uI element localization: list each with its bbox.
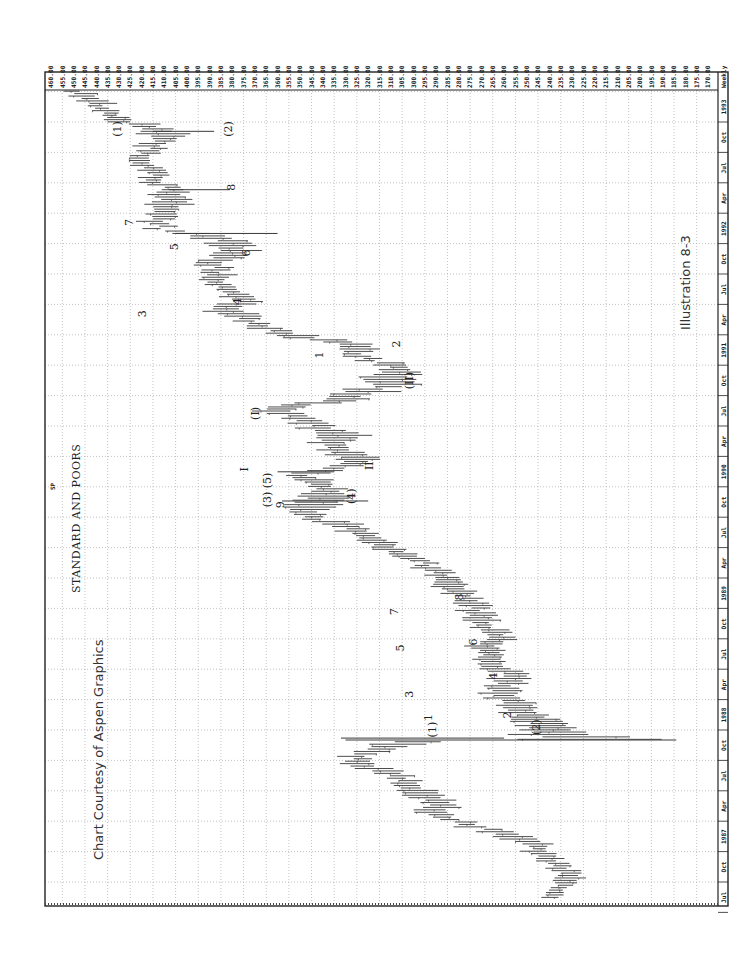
- date-tick-label: Jul: [720, 648, 727, 659]
- price-tick-label: 205.00: [625, 65, 632, 88]
- price-tick-label: 240.00: [546, 65, 553, 88]
- price-tick-label: 315.00: [376, 65, 383, 88]
- wave-label: (2): [530, 719, 543, 735]
- price-tick-label: 190.00: [659, 65, 666, 88]
- date-tick-label: Jul: [720, 527, 727, 538]
- price-tick-label: 390.00: [206, 65, 213, 88]
- price-tick-label: 460.00: [47, 65, 54, 88]
- price-tick-label: 170.00: [704, 65, 711, 88]
- date-tick-label: Oct: [720, 253, 727, 264]
- date-tick-label: Oct: [720, 132, 727, 143]
- price-tick-label: 260.00: [500, 65, 507, 88]
- wave-label: 8: [225, 184, 238, 191]
- date-tick-label: Apr: [720, 800, 728, 811]
- wave-label: (1): [426, 722, 439, 738]
- price-tick-label: 250.00: [523, 65, 530, 88]
- date-tick-label: Apr: [720, 557, 728, 568]
- date-tick-label: 1988: [720, 707, 727, 722]
- date-tick-label: Apr: [720, 314, 728, 325]
- price-tick-label: 445.00: [81, 65, 88, 88]
- time-axis: JulOct1987AprJulOct1988AprJulOct1989AprJ…: [718, 99, 728, 912]
- wave-label: 3: [136, 310, 149, 317]
- price-tick-label: 310.00: [387, 65, 394, 88]
- price-tick-label: 340.00: [319, 65, 326, 88]
- date-tick-label: Oct: [720, 861, 727, 872]
- price-tick-label: 395.00: [194, 65, 201, 88]
- price-tick-label: 290.00: [432, 65, 439, 88]
- wave-label: (I): [249, 407, 262, 420]
- wave-label: II: [363, 461, 376, 470]
- price-tick-label: 195.00: [648, 65, 655, 88]
- symbol-label: SP: [49, 482, 56, 490]
- wave-label: 4: [487, 673, 500, 680]
- price-tick-label: 185.00: [670, 65, 677, 88]
- price-tick-label: 245.00: [534, 65, 541, 88]
- date-tick-label: Oct: [720, 375, 727, 386]
- price-tick-label: 305.00: [398, 65, 405, 88]
- wave-label: 2: [390, 341, 403, 348]
- price-tick-label: 405.00: [172, 65, 179, 88]
- wave-label: 9: [274, 501, 287, 508]
- wave-label: (4): [345, 488, 358, 504]
- price-tick-label: 285.00: [444, 65, 451, 88]
- credit-label: Chart Courtesy of Aspen Graphics: [91, 639, 106, 860]
- date-tick-label: Apr: [720, 192, 728, 203]
- price-tick-label: 365.00: [262, 65, 269, 88]
- wave-label: 8: [453, 594, 466, 601]
- date-tick-label: Jul: [720, 892, 727, 903]
- price-tick-label: 175.00: [693, 65, 700, 88]
- price-tick-label: 210.00: [614, 65, 621, 88]
- price-tick-label: 220.00: [591, 65, 598, 88]
- date-tick-label: Apr: [720, 436, 728, 447]
- price-tick-label: 455.00: [59, 65, 66, 88]
- wave-label: 7: [123, 219, 136, 226]
- price-tick-label: 295.00: [421, 65, 428, 88]
- price-tick-label: 325.00: [353, 65, 360, 88]
- price-tick-label: 450.00: [70, 65, 77, 88]
- price-tick-label: 345.00: [308, 65, 315, 88]
- date-tick-label: 1991: [720, 342, 727, 357]
- wave-label: 1: [313, 352, 326, 359]
- price-tick-label: 400.00: [183, 65, 190, 88]
- price-tick-label: 265.00: [489, 65, 496, 88]
- date-tick-label: Jul: [720, 162, 727, 173]
- wave-label: (2): [222, 121, 235, 137]
- price-tick-label: 300.00: [410, 65, 417, 88]
- date-tick-label: 1990: [720, 464, 727, 479]
- chart-title: STANDARD AND POORS: [70, 444, 83, 593]
- price-tick-label: 350.00: [296, 65, 303, 88]
- price-tick-label: 320.00: [364, 65, 371, 88]
- price-tick-label: 415.00: [149, 65, 156, 88]
- price-tick-label: 215.00: [602, 65, 609, 88]
- price-tick-label: 180.00: [682, 65, 689, 88]
- periodicity-label: Weekly: [720, 65, 728, 88]
- wave-label: (II): [403, 372, 416, 389]
- wave-label: (1): [111, 121, 124, 137]
- illustration-label: Illustration 8-3: [678, 235, 693, 330]
- price-tick-label: 275.00: [466, 65, 473, 88]
- wave-label: 6: [467, 639, 480, 646]
- date-tick-label: 1992: [720, 221, 727, 236]
- wave-label: 4: [231, 298, 244, 305]
- price-tick-label: 370.00: [251, 65, 258, 88]
- page-background: [0, 0, 741, 957]
- date-tick-label: Apr: [720, 679, 728, 690]
- wave-label: I: [238, 467, 251, 471]
- date-tick-label: Oct: [720, 496, 727, 507]
- price-tick-label: 270.00: [478, 65, 485, 88]
- price-tick-label: 375.00: [240, 65, 247, 88]
- price-tick-label: 435.00: [104, 65, 111, 88]
- price-tick-label: 330.00: [342, 65, 349, 88]
- date-tick-label: Jul: [720, 284, 727, 295]
- price-tick-label: 230.00: [568, 65, 575, 88]
- price-tick-label: 410.00: [160, 65, 167, 88]
- wave-label: 3: [403, 691, 416, 698]
- price-tick-label: 360.00: [274, 65, 281, 88]
- date-tick-label: 1989: [720, 586, 727, 601]
- date-tick-label: Oct: [720, 618, 727, 629]
- price-tick-label: 280.00: [455, 65, 462, 88]
- price-tick-label: 440.00: [93, 65, 100, 88]
- price-tick-label: 425.00: [126, 65, 133, 88]
- price-tick-label: 335.00: [330, 65, 337, 88]
- wave-label: 6: [240, 249, 253, 256]
